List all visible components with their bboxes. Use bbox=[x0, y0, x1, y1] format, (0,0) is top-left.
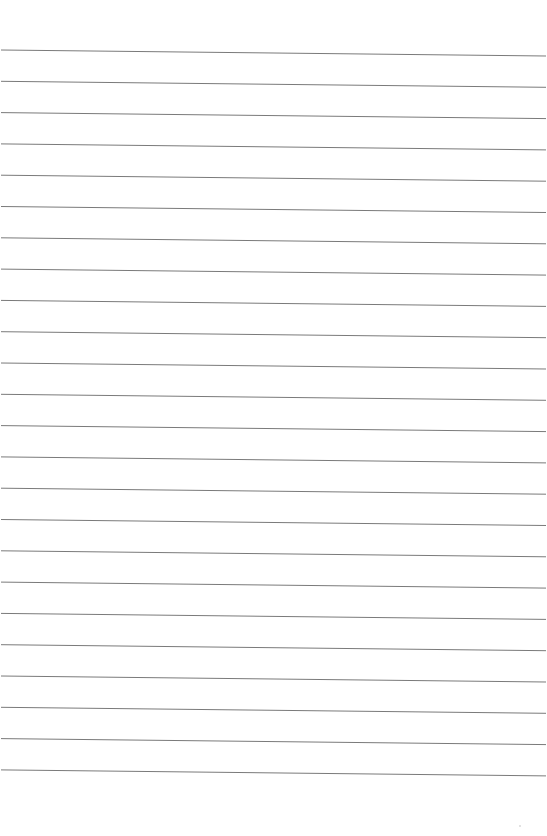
ruled-line bbox=[1, 144, 546, 150]
ruled-line bbox=[1, 520, 546, 526]
ruled-line bbox=[1, 707, 546, 713]
ruled-line bbox=[1, 394, 546, 400]
ruled-line bbox=[1, 488, 546, 494]
ruled-line bbox=[1, 113, 546, 119]
ruled-line bbox=[1, 582, 546, 588]
ruled-line bbox=[1, 645, 546, 651]
ruled-line bbox=[1, 300, 546, 306]
ruled-line bbox=[1, 238, 546, 244]
ruled-line bbox=[1, 81, 546, 87]
speck-mark bbox=[519, 825, 521, 827]
ruled-line bbox=[1, 207, 546, 213]
lined-paper-page bbox=[0, 0, 547, 836]
ruled-line bbox=[1, 457, 546, 463]
ruled-line bbox=[1, 269, 546, 275]
ruled-line bbox=[1, 551, 546, 557]
ruled-lines bbox=[0, 0, 547, 836]
ruled-line bbox=[1, 676, 546, 682]
ruled-line bbox=[1, 739, 546, 745]
ruled-line bbox=[1, 613, 546, 619]
ruled-line bbox=[1, 50, 546, 56]
ruled-line bbox=[1, 332, 546, 338]
ruled-line bbox=[1, 426, 546, 432]
ruled-line bbox=[1, 770, 546, 776]
ruled-line bbox=[1, 363, 546, 369]
ruled-line bbox=[1, 175, 546, 181]
